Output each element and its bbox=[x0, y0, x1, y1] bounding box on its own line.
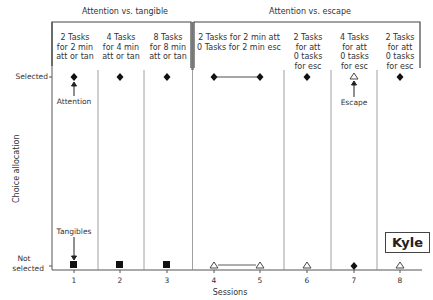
x-tick-1: 1 bbox=[69, 276, 79, 286]
x-tick-3: 3 bbox=[162, 276, 172, 286]
participant-label: Kyle bbox=[385, 232, 430, 253]
x-tick-4: 4 bbox=[209, 276, 219, 286]
series-escape bbox=[210, 73, 404, 268]
annotation-escape: Escape bbox=[334, 98, 374, 108]
y-tick-not-selected: Not selected bbox=[4, 254, 44, 273]
series-tangibles bbox=[70, 261, 170, 268]
phase-label-3: 8 Tasksfor 8 minatt or tan bbox=[146, 33, 190, 62]
phase-label-4: 2 Tasks for 2 min att0 Tasks for 2 min e… bbox=[196, 33, 282, 52]
phase-label-2: 4 Tasksfor 4 minatt or tan bbox=[100, 33, 142, 62]
x-tick-2: 2 bbox=[115, 276, 125, 286]
annotation-attention: Attention bbox=[52, 97, 96, 107]
y-tick-selected: Selected bbox=[4, 72, 48, 82]
phase-label-1: 2 Tasksfor 2 minatt or tan bbox=[54, 33, 96, 62]
annotation-tangibles: Tangibles bbox=[52, 227, 96, 237]
phase-label-5: 2 Tasksfor att0 tasksfor esc bbox=[286, 33, 330, 71]
group-label-tangible: Attention vs. tangible bbox=[80, 7, 170, 17]
x-tick-7: 7 bbox=[349, 276, 359, 286]
phase-label-7: 2 Tasksfor att0 tasksfor esc bbox=[379, 33, 421, 71]
group-label-escape: Attention vs. escape bbox=[250, 7, 370, 17]
phase-label-6: 4 Tasksfor att0 tasksfor esc bbox=[333, 33, 376, 71]
x-tick-6: 6 bbox=[302, 276, 312, 286]
x-tick-8: 8 bbox=[395, 276, 405, 286]
x-tick-5: 5 bbox=[255, 276, 265, 286]
x-axis-label: Sessions bbox=[200, 288, 260, 298]
y-axis-label: Choice allocation bbox=[12, 124, 22, 214]
